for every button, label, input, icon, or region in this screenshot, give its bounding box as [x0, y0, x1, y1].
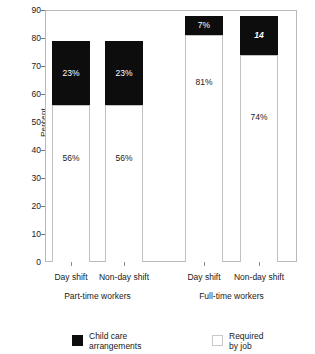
legend-label: Required by job — [229, 332, 264, 351]
x-tick-mark — [71, 262, 72, 266]
bar-segment-required-by-job: 74% — [240, 55, 278, 262]
bar-segment-required-by-job: 56% — [52, 105, 90, 262]
bar-value-label: 56% — [106, 154, 142, 163]
y-tick-label: 10 — [0, 230, 41, 238]
y-tick-label: 0 — [0, 258, 41, 266]
bar-value-label: 23% — [53, 69, 89, 78]
legend-label: Child care arrangements — [89, 332, 141, 351]
bar-segment-child-care-arrangements: 23% — [52, 41, 90, 105]
x-tick-label: Non-day shift — [214, 272, 304, 282]
stacked-bar-chart: Percent 0102030405060708090 56%23%56%23%… — [0, 0, 315, 354]
chart-legend: Child care arrangementsRequired by job — [0, 330, 315, 354]
bar-value-label: 81% — [186, 78, 222, 87]
bar-value-label: 7% — [186, 21, 222, 30]
x-tick-mark — [204, 262, 205, 266]
x-tick-mark — [259, 262, 260, 266]
legend-swatch-black — [72, 335, 83, 346]
x-tick-mark — [124, 262, 125, 266]
y-tick-label: 90 — [0, 6, 41, 14]
bar-segment-child-care-arrangements: 23% — [105, 41, 143, 105]
x-tick-label: Non-day shift — [79, 272, 169, 282]
y-tick-label: 30 — [0, 174, 41, 182]
y-tick-label: 80 — [0, 34, 41, 42]
x-axis-group-label: Part-time workers — [38, 291, 158, 301]
bar-segment-required-by-job: 81% — [185, 35, 223, 262]
bar-value-label: 56% — [53, 154, 89, 163]
bar-value-label: 74% — [241, 113, 277, 122]
y-tick-label: 50 — [0, 118, 41, 126]
legend-swatch-white — [212, 335, 223, 346]
bar-segment-child-care-arrangements: 7% — [185, 16, 223, 36]
y-tick-label: 40 — [0, 146, 41, 154]
y-tick-label: 60 — [0, 90, 41, 98]
bar-value-label: 14 — [241, 31, 277, 40]
bar-segment-child-care-arrangements: 14 — [240, 16, 278, 55]
y-tick-label: 20 — [0, 202, 41, 210]
bar-value-label: 23% — [106, 69, 142, 78]
y-tick-label: 70 — [0, 62, 41, 70]
x-axis-group-label: Full-time workers — [172, 291, 292, 301]
bar-segment-required-by-job: 56% — [105, 105, 143, 262]
